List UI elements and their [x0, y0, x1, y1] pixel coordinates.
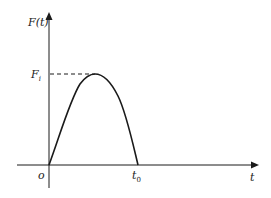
- force-curve: [49, 74, 138, 165]
- peak-label: Fi: [31, 69, 41, 83]
- origin-label: o: [38, 170, 45, 181]
- chart: F(t) Fi o t0 t: [0, 0, 271, 198]
- x-axis-arrow-icon: [251, 162, 259, 169]
- y-axis-label: F(t): [28, 17, 49, 28]
- t0-label: t0: [132, 170, 141, 184]
- x-axis-label: t: [250, 172, 254, 183]
